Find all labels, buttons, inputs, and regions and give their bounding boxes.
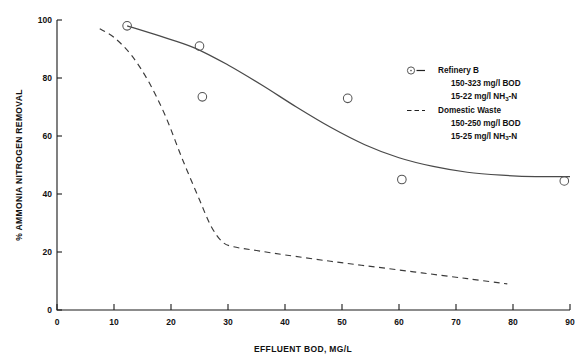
y-axis-title: % AMMONIA NITROGEN REMOVAL xyxy=(14,89,24,240)
legend-label-refinery-b: Refinery B xyxy=(438,64,479,77)
data-point-marker xyxy=(560,177,569,186)
x-tick-label-40: 40 xyxy=(280,317,290,327)
legend-detail-refinery-b-bod: 150-323 mg/l BOD xyxy=(404,77,580,90)
chart-figure: 0 20 40 60 80 100 0 10 20 30 40 50 60 70… xyxy=(0,0,580,363)
y-tick-label-60: 60 xyxy=(43,131,53,141)
y-axis-ticks xyxy=(57,20,62,310)
nh3n-suffix-refinery: -N xyxy=(509,92,518,101)
data-point-marker xyxy=(198,93,207,102)
chart-plot-area: 0 20 40 60 80 100 0 10 20 30 40 50 60 70… xyxy=(0,0,580,363)
x-tick-label-20: 20 xyxy=(166,317,176,327)
legend-marker-open-circle-icon xyxy=(404,64,438,77)
nh3n-subscript-domestic: 3 xyxy=(505,134,508,141)
nh3n-subscript-refinery: 3 xyxy=(505,95,508,102)
legend-detail-refinery-b-nh3n: 15-22 mg/l NH3-N xyxy=(404,90,580,103)
legend-entry-refinery-b: Refinery B xyxy=(404,64,580,77)
x-tick-label-90: 90 xyxy=(565,317,575,327)
y-tick-label-100: 100 xyxy=(38,15,52,25)
y-tick-label-20: 20 xyxy=(43,247,53,257)
x-axis-ticks xyxy=(57,304,570,310)
legend-detail-domestic-waste-nh3n: 15-25 mg/l NH3-N xyxy=(404,130,580,143)
nh3n-prefix-domestic: 15-25 mg/l NH xyxy=(451,132,505,141)
x-tick-label-50: 50 xyxy=(337,317,347,327)
legend-entry-domestic-waste: Domestic Waste xyxy=(404,104,580,117)
data-point-marker xyxy=(195,42,204,51)
data-point-marker xyxy=(398,175,407,184)
legend-label-domestic-waste: Domestic Waste xyxy=(438,104,501,117)
x-tick-label-0: 0 xyxy=(55,317,60,327)
legend-detail-domestic-waste-bod: 150-250 mg/l BOD xyxy=(404,117,580,130)
y-tick-label-40: 40 xyxy=(43,189,53,199)
chart-legend: Refinery B 150-323 mg/l BOD 15-22 mg/l N… xyxy=(404,64,580,143)
data-point-marker xyxy=(343,94,352,103)
legend-dashed-line-icon xyxy=(404,104,438,117)
y-tick-label-0: 0 xyxy=(47,305,52,315)
x-tick-label-30: 30 xyxy=(223,317,233,327)
x-tick-label-80: 80 xyxy=(508,317,518,327)
y-tick-label-80: 80 xyxy=(43,73,53,83)
x-tick-label-10: 10 xyxy=(109,317,119,327)
nh3n-prefix-refinery: 15-22 mg/l NH xyxy=(451,92,505,101)
nh3n-suffix-domestic: -N xyxy=(509,132,518,141)
x-axis-title: EFFLUENT BOD, MG/L xyxy=(254,344,352,354)
x-tick-label-70: 70 xyxy=(451,317,461,327)
x-tick-label-60: 60 xyxy=(394,317,404,327)
